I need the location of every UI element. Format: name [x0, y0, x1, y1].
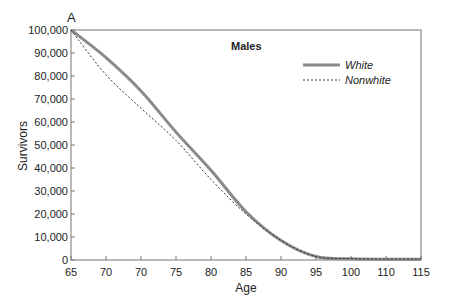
x-tick-label: 70 [100, 266, 112, 278]
y-tick-label: 100,000 [28, 24, 68, 36]
x-tick-label: 90 [275, 266, 287, 278]
y-tick-label: 0 [62, 254, 68, 266]
y-tick-label: 40,000 [34, 162, 68, 174]
x-tick-label: 100 [342, 266, 360, 278]
y-tick-label: 70,000 [34, 93, 68, 105]
x-tick-label: 85 [240, 266, 252, 278]
y-axis-ticks: 010,00020,00030,00040,00050,00060,00070,… [28, 24, 75, 266]
x-axis-label: Age [235, 281, 257, 295]
panel-label: A [67, 10, 76, 25]
x-tick-label: 80 [205, 266, 217, 278]
x-tick-label: 115 [412, 266, 430, 278]
x-tick-label: 65 [65, 266, 77, 278]
y-tick-label: 50,000 [34, 139, 68, 151]
x-tick-label: 70 [135, 266, 147, 278]
y-tick-label: 30,000 [34, 185, 68, 197]
y-tick-label: 80,000 [34, 70, 68, 82]
survival-chart: 010,00020,00030,00040,00050,00060,00070,… [0, 0, 450, 304]
y-tick-label: 10,000 [34, 231, 68, 243]
x-tick-label: 110 [377, 266, 395, 278]
y-tick-label: 20,000 [34, 208, 68, 220]
y-tick-label: 90,000 [34, 47, 68, 59]
y-axis-label: Survivors [16, 121, 30, 171]
legend: White Nonwhite [303, 59, 391, 86]
x-tick-label: 75 [170, 266, 182, 278]
legend-nonwhite-label: Nonwhite [345, 74, 391, 86]
y-tick-label: 60,000 [34, 116, 68, 128]
legend-white-label: White [345, 59, 373, 71]
chart-title: Males [231, 40, 262, 52]
x-tick-label: 95 [310, 266, 322, 278]
